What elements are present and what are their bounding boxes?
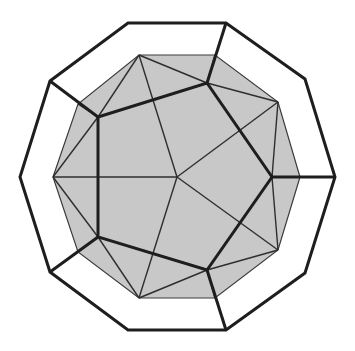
polyhedron-diagram: Dodecahedron-like polyhedron net: pentag… [0,0,355,351]
diagram-canvas [0,0,355,351]
